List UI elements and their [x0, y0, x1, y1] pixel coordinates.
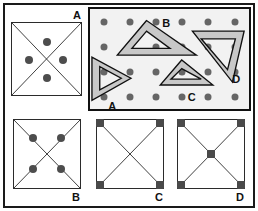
answer-square-panel — [11, 22, 82, 96]
grid-dot — [205, 94, 212, 101]
grid-dot — [100, 94, 107, 101]
answer-square-diagonals — [12, 23, 81, 95]
triangle-a-shape — [92, 57, 131, 100]
grid-dot — [179, 94, 186, 101]
grid-dot — [205, 19, 212, 26]
triangle-c-label: C — [188, 92, 196, 103]
option-d-label: D — [236, 192, 244, 203]
grid-dot — [152, 44, 159, 51]
answer-square-top-mark — [43, 38, 51, 46]
grid-dot — [126, 69, 133, 76]
option-d-top-left-corner-mark — [177, 119, 185, 127]
answer-square-bottom-mark — [43, 74, 51, 82]
option-d-bottom-left-corner-mark — [177, 181, 185, 189]
grid-dot — [152, 19, 159, 26]
option-d-panel — [177, 119, 245, 189]
grid-dot — [126, 44, 133, 51]
option-c-label: C — [155, 192, 163, 203]
option-d-centre-mark — [207, 150, 215, 158]
option-b-upper-left-mark — [29, 134, 37, 142]
figure-root: A — [0, 0, 258, 211]
grid-dot — [179, 69, 186, 76]
option-b-diagonals — [14, 120, 80, 188]
triangle-b-label: B — [162, 18, 170, 29]
grid-dot — [179, 19, 186, 26]
grid-dot — [100, 44, 107, 51]
option-c-bottom-left-corner-mark — [96, 181, 104, 189]
option-b-panel — [13, 119, 81, 189]
grid-dot — [231, 94, 238, 101]
option-c-diagonals — [97, 120, 163, 188]
option-b-lower-left-mark — [29, 165, 37, 173]
grid-dot — [152, 69, 159, 76]
triangle-a-label: A — [108, 101, 116, 112]
grid-dot — [205, 44, 212, 51]
grid-dot — [126, 19, 133, 26]
option-d-top-right-corner-mark — [237, 119, 245, 127]
option-c-top-right-corner-mark — [156, 119, 164, 127]
option-c-top-left-corner-mark — [96, 119, 104, 127]
option-b-upper-right-mark — [57, 134, 65, 142]
answer-square-right-mark — [59, 56, 67, 64]
grid-dot — [179, 44, 186, 51]
grid-dot — [126, 94, 133, 101]
grid-dot — [205, 69, 212, 76]
option-b-label: B — [72, 192, 80, 203]
grid-dot — [152, 94, 159, 101]
grid-dot — [100, 69, 107, 76]
answer-square-left-mark — [25, 56, 33, 64]
answer-square-label: A — [73, 10, 81, 21]
grid-dot — [100, 19, 107, 26]
stimulus-panel: B D C A — [88, 7, 251, 111]
grid-dot — [231, 44, 238, 51]
option-c-bottom-right-corner-mark — [156, 181, 164, 189]
option-b-lower-right-mark — [57, 165, 65, 173]
triangle-d-label: D — [232, 74, 240, 85]
option-c-panel — [96, 119, 164, 189]
option-d-bottom-right-corner-mark — [237, 181, 245, 189]
grid-dot — [231, 19, 238, 26]
